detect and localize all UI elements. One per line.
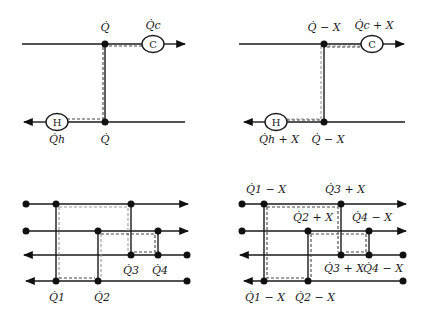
- label-hot-utility: Q̇h: [49, 133, 65, 146]
- panel-bottom-right: Q̇1 − X Q̇3 + X Q̇2 + X Q̇4 − X Q̇3 + X …: [239, 183, 407, 304]
- exchanger-node: [128, 252, 135, 259]
- label-top-match: Q̇ − X: [307, 21, 341, 34]
- label-q4: Q̇4: [152, 264, 168, 277]
- cold-utility-symbol: C: [368, 39, 376, 50]
- label-q3-bottom: Q̇3 + X: [324, 262, 365, 275]
- label-q2: Q̇2: [94, 291, 110, 304]
- exchanger-node: [366, 252, 373, 259]
- exchanger-node: [128, 201, 135, 208]
- stream-start-node: [239, 228, 246, 235]
- hot-utility-symbol: H: [272, 117, 281, 128]
- heat-exchanger-network-diagram: C H Q̇ Q̇c Q̇h Q̇ C H Q̇ − X Q̇c + X Q̇h…: [0, 0, 432, 319]
- label-q3-top: Q̇3 + X: [325, 183, 366, 196]
- stream-start-node: [184, 278, 191, 285]
- exchanger-node: [95, 278, 102, 285]
- exchanger-node: [261, 201, 268, 208]
- stream-start-node: [23, 228, 30, 235]
- exchanger-node: [155, 252, 162, 259]
- panel-top-right: C H Q̇ − X Q̇c + X Q̇h + X Q̇ − X: [239, 19, 405, 146]
- panel-top-left: C H Q̇ Q̇c Q̇h Q̇: [22, 19, 185, 146]
- stream-start-node: [184, 252, 191, 259]
- exchanger-node: [321, 41, 328, 48]
- stream-start-node: [400, 252, 407, 259]
- exchanger-node: [95, 228, 102, 235]
- exchanger-node: [53, 278, 60, 285]
- exchanger-node: [102, 119, 109, 126]
- exchanger-node: [155, 228, 162, 235]
- label-q3: Q̇3: [123, 264, 139, 277]
- label-hot-utility: Q̇h + X: [259, 133, 300, 146]
- stream-start-node: [239, 201, 246, 208]
- panel-bottom-left: Q̇1 Q̇2 Q̇3 Q̇4: [23, 201, 191, 305]
- exchanger-node: [366, 228, 373, 235]
- label-q2-bottom: Q̇2 − X: [295, 291, 336, 304]
- stream-start-node: [400, 278, 407, 285]
- exchanger-node: [53, 201, 60, 208]
- label-q2-top: Q̇2 + X: [293, 211, 334, 224]
- label-cold-utility: Q̇c: [145, 19, 160, 32]
- exchanger-node: [261, 278, 268, 285]
- label-cold-utility: Q̇c + X: [354, 19, 394, 32]
- loop-path: [59, 207, 128, 252]
- exchanger-node: [338, 252, 345, 259]
- label-q4-top: Q̇4 − X: [352, 211, 393, 224]
- cold-utility-symbol: C: [149, 39, 157, 50]
- label-q4-bottom: Q̇4 − X: [363, 262, 404, 275]
- exchanger-node: [102, 41, 109, 48]
- exchanger-node: [321, 119, 328, 126]
- label-q1-top: Q̇1 − X: [246, 183, 287, 196]
- label-top-match: Q̇: [100, 21, 109, 34]
- hot-utility-symbol: H: [53, 117, 62, 128]
- label-q1: Q̇1: [49, 291, 65, 304]
- exchanger-node: [338, 201, 345, 208]
- label-bottom-match: Q̇ − X: [311, 133, 345, 146]
- exchanger-node: [305, 228, 312, 235]
- label-q1-bottom: Q̇1 − X: [245, 291, 286, 304]
- stream-start-node: [23, 201, 30, 208]
- exchanger-node: [305, 278, 312, 285]
- label-bottom-match: Q̇: [100, 133, 109, 146]
